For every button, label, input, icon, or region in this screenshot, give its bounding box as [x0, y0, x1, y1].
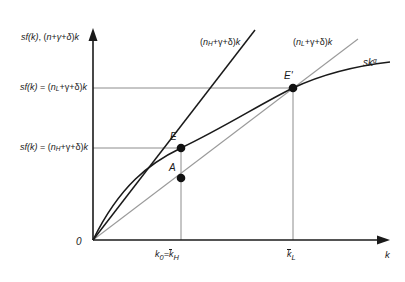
y-tick-label-nH: sf(k) = (nH+γ+δ)k [20, 143, 88, 153]
point-label-E: E [170, 132, 177, 142]
y-tick-label-nL: sf(k) = (nL+γ+δ)k [20, 83, 87, 93]
point-label-E-prime: E' [284, 71, 293, 81]
point-E-marker [177, 144, 186, 153]
x-tick-label-kL: kL [287, 250, 296, 261]
origin-label: 0 [76, 237, 82, 247]
x-axis-title: k [385, 250, 390, 260]
figure-canvas: sf(k), (n+γ+δ)k sf(k) = (nL+γ+δ)k sf(k) … [0, 0, 405, 282]
production-curve [93, 62, 390, 240]
point-A-marker [177, 174, 186, 183]
curve-label-nH: (nH+γ+δ)k [200, 38, 240, 48]
y-axis-arrow-icon [89, 28, 98, 41]
y-axis-title: sf(k), (n+γ+δ)k [21, 33, 79, 42]
point-E-prime-marker [289, 84, 298, 93]
point-label-A: A [169, 163, 176, 173]
curve-label-nL: (nL+γ+δ)k [293, 38, 332, 48]
x-axis-arrow-icon [377, 236, 390, 245]
x-tick-label-k0: k0=kH [155, 250, 179, 261]
curve-label-production: skα [363, 58, 377, 68]
